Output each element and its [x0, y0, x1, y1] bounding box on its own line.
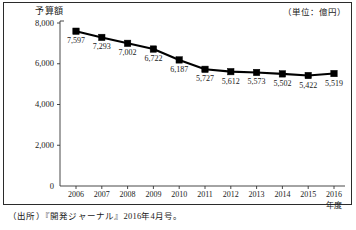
data-point-marker [202, 66, 208, 72]
chart-frame: 予算額 （単位：億円） 02,0004,0006,0008,0002006200… [3, 2, 352, 205]
data-point-marker [305, 72, 311, 78]
y-axis-tick-label: 6,000 [4, 58, 54, 68]
data-point-marker [279, 71, 285, 77]
plot-area: 02,0004,0006,0008,0002006200720082009201… [4, 3, 353, 206]
y-axis-tick-label: 4,000 [4, 99, 54, 109]
data-point-marker [73, 28, 79, 34]
data-point-marker [228, 68, 234, 74]
data-point-marker [150, 46, 156, 52]
data-point-marker [99, 34, 105, 40]
data-point-marker [331, 70, 337, 76]
data-point-marker [176, 57, 182, 63]
y-axis-tick-label: 0 [4, 181, 54, 191]
plot-svg [4, 3, 353, 206]
data-point-label: 5,519 [317, 79, 351, 88]
x-axis-unit-label: 年度 [326, 199, 342, 210]
data-point-label: 6,722 [136, 54, 170, 63]
source-note: （出所）『開発ジャーナル』2016年4月号。 [8, 209, 183, 221]
data-point-marker [253, 69, 259, 75]
y-axis-tick-label: 2,000 [4, 140, 54, 150]
data-point-marker [124, 40, 130, 46]
data-point-label: 6,187 [162, 65, 196, 74]
chart-figure: 予算額 （単位：億円） 02,0004,0006,0008,0002006200… [0, 0, 356, 230]
y-axis-tick-label: 8,000 [4, 18, 54, 28]
x-axis-tick-label: 2016 [318, 190, 350, 199]
